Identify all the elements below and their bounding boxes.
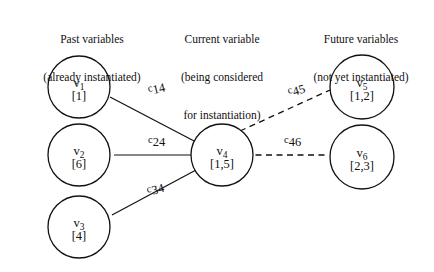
heading-current-line1: Current variable — [152, 33, 292, 46]
node-v3-domain: [4] — [44, 230, 114, 244]
node-v1-label: v1 [1] — [44, 77, 114, 104]
node-v3-label: v3 [4] — [44, 217, 114, 244]
node-v2-domain: [6] — [44, 158, 114, 172]
node-v4-label: v4 [1,5] — [187, 145, 257, 172]
diagram-canvas: Past variables (already instantiated) Cu… — [0, 0, 434, 272]
heading-current-line3: for instantiation) — [152, 109, 292, 122]
node-v6-domain: [2,3] — [327, 160, 397, 174]
heading-future-line1: Future variables — [288, 33, 434, 46]
node-v4-domain: [1,5] — [187, 158, 257, 172]
node-v1-domain: [1] — [44, 90, 114, 104]
edge-label-c46: c46 — [284, 134, 301, 148]
node-v5-label: v5 [1,2] — [327, 77, 397, 104]
heading-past-line1: Past variables — [8, 33, 176, 46]
heading-current-line2: (being considered — [152, 71, 292, 84]
node-v6-label: v6 [2,3] — [327, 147, 397, 174]
node-v2-label: v2 [6] — [44, 145, 114, 172]
heading-current-variable: Current variable (being considered for i… — [152, 8, 292, 147]
edge-label-c24: c24 — [148, 134, 165, 148]
node-v5-domain: [1,2] — [327, 90, 397, 104]
edge-label-c14: c14 — [146, 79, 166, 97]
